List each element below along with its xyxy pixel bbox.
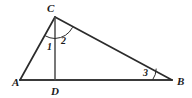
vertex-label-a: A — [11, 76, 19, 88]
angle-label-1: 1 — [47, 41, 52, 52]
angle-label-3: 3 — [142, 67, 148, 78]
vertex-label-b: B — [176, 75, 184, 87]
angle-arc-1 — [45, 36, 55, 39]
vertex-label-d: D — [50, 85, 59, 97]
segment-cb — [55, 17, 172, 80]
vertex-label-c: C — [47, 2, 55, 14]
geometry-canvas: A B C D 1 2 3 — [0, 0, 192, 98]
angle-label-2: 2 — [60, 35, 66, 46]
geometry-diagram: A B C D 1 2 3 — [0, 0, 192, 98]
